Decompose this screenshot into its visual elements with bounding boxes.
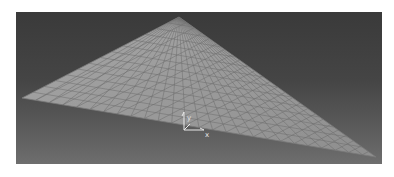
mesh-scene: y x: [16, 12, 382, 164]
x-axis-label: x: [205, 131, 209, 139]
3d-viewport[interactable]: y x: [16, 12, 382, 164]
x-axis-arrow: [184, 128, 204, 130]
y-axis-label: y: [187, 114, 191, 122]
triangular-plate: [22, 17, 376, 157]
